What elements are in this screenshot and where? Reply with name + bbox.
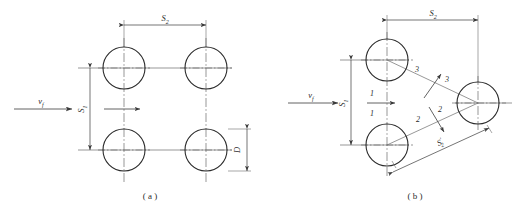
panel-b-channel-3-label-left: 3	[414, 65, 419, 74]
panel-b-channel-1-label-upper: 1	[370, 89, 374, 98]
panel-b-channel-2-label-left: 2	[416, 115, 420, 124]
panel-b-channel-1-label-lower: 1	[370, 109, 374, 118]
panel-b-caption: ( b )	[408, 191, 423, 201]
panel-b-channel-3-label-right: 3	[444, 75, 449, 84]
figure-root: S2 S1	[0, 0, 517, 216]
panel-a-dim-d-label: D	[232, 146, 242, 154]
panel-b-channel-2-label-right: 2	[438, 105, 442, 114]
tube-bundle-arrangement-figure: S2 S1	[0, 0, 517, 216]
panel-a-caption: ( a )	[143, 191, 158, 201]
